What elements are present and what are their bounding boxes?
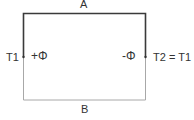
wire-b (24, 57, 146, 100)
label-wire-a: A (80, 0, 87, 10)
right-junction-dot (144, 56, 146, 58)
label-left-temperature: T1 (6, 51, 19, 63)
left-junction-dot (22, 56, 24, 58)
label-right-temperature: T2 = T1 (153, 51, 191, 63)
label-left-potential: +Φ (31, 50, 48, 62)
label-right-potential: -Φ (122, 50, 136, 62)
label-wire-b: B (81, 103, 88, 115)
